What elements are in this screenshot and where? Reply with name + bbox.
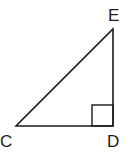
right-angle-marker xyxy=(92,105,113,126)
triangle-cde xyxy=(16,29,113,126)
triangle-diagram: E C D xyxy=(0,0,133,158)
vertex-label-d: D xyxy=(107,132,119,151)
vertex-label-c: C xyxy=(0,132,12,151)
vertex-label-e: E xyxy=(108,6,119,25)
